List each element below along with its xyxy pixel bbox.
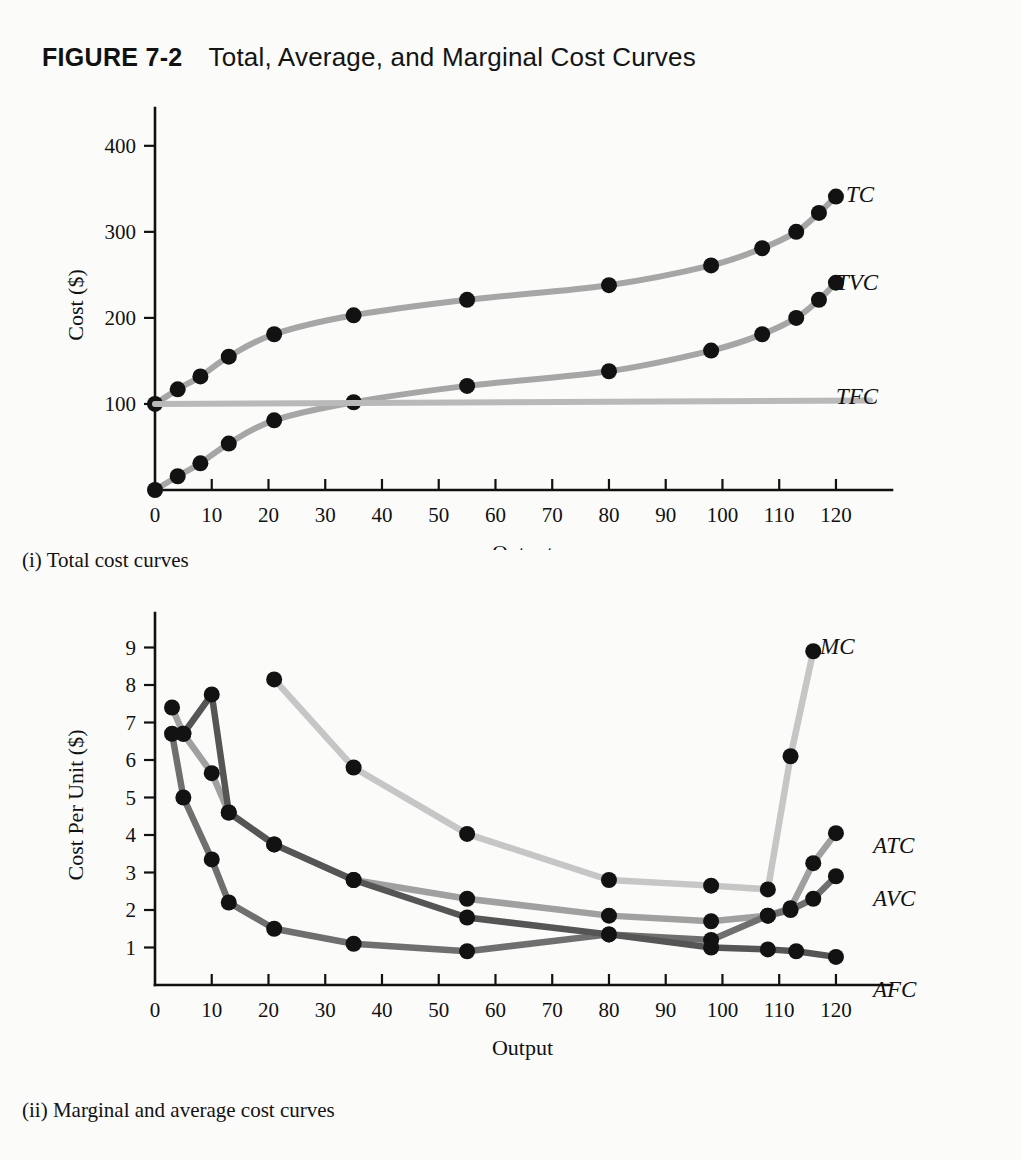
y-tick-label: 100 bbox=[105, 392, 137, 416]
x-tick-label: 40 bbox=[371, 503, 392, 527]
data-point-atc bbox=[805, 855, 821, 871]
x-tick-label: 50 bbox=[428, 998, 449, 1022]
data-point-avc bbox=[459, 943, 475, 959]
y-tick-label: 1 bbox=[126, 936, 137, 960]
data-point-afc bbox=[760, 941, 776, 957]
data-point-afc bbox=[788, 943, 804, 959]
data-point-tc bbox=[754, 240, 770, 256]
y-tick-label: 7 bbox=[126, 711, 137, 735]
data-point-mc bbox=[266, 671, 282, 687]
x-tick-label: 10 bbox=[201, 998, 222, 1022]
x-tick-label: 120 bbox=[820, 503, 852, 527]
data-point-afc bbox=[204, 686, 220, 702]
data-point-mc bbox=[760, 881, 776, 897]
chart-panel-unit-cost: 1234567890102030405060708090100110120Out… bbox=[0, 595, 1000, 1095]
data-point-tc bbox=[459, 292, 475, 308]
y-tick-label: 8 bbox=[126, 673, 137, 697]
y-axis-title: Cost Per Unit ($) bbox=[63, 730, 88, 881]
data-point-tc bbox=[703, 257, 719, 273]
marginal-average-cost-chart: 1234567890102030405060708090100110120Out… bbox=[0, 595, 1000, 1095]
x-tick-label: 20 bbox=[258, 998, 279, 1022]
data-point-avc bbox=[266, 921, 282, 937]
data-point-tvc bbox=[754, 326, 770, 342]
total-cost-chart: 1002003004000102030405060708090100110120… bbox=[0, 100, 1000, 550]
data-point-atc bbox=[828, 825, 844, 841]
data-point-tc bbox=[788, 224, 804, 240]
data-point-avc bbox=[805, 891, 821, 907]
data-point-tvc bbox=[811, 292, 827, 308]
data-point-mc bbox=[703, 878, 719, 894]
data-point-avc bbox=[175, 790, 191, 806]
data-point-tvc bbox=[192, 455, 208, 471]
data-point-tc bbox=[601, 277, 617, 293]
data-point-afc bbox=[703, 940, 719, 956]
data-point-tvc bbox=[266, 412, 282, 428]
data-point-tc bbox=[192, 368, 208, 384]
data-point-tc bbox=[828, 189, 844, 205]
data-point-tvc bbox=[459, 378, 475, 394]
data-point-avc bbox=[221, 895, 237, 911]
y-tick-label: 4 bbox=[126, 823, 137, 847]
unit-cost-label-avc: AVC bbox=[873, 886, 915, 912]
y-axis-title: Cost ($) bbox=[63, 269, 88, 341]
unit-cost-label-mc: MC bbox=[820, 634, 855, 660]
x-tick-label: 90 bbox=[655, 998, 676, 1022]
figure-header: FIGURE 7-2 Total, Average, and Marginal … bbox=[42, 42, 696, 73]
data-point-avc bbox=[204, 851, 220, 867]
x-tick-label: 80 bbox=[598, 998, 619, 1022]
data-point-tvc bbox=[221, 436, 237, 452]
data-point-afc bbox=[175, 726, 191, 742]
x-tick-label: 80 bbox=[598, 503, 619, 527]
y-tick-label: 9 bbox=[126, 636, 137, 660]
data-point-tvc bbox=[788, 310, 804, 326]
x-tick-label: 30 bbox=[315, 503, 336, 527]
x-tick-label: 0 bbox=[150, 503, 161, 527]
total-cost-label-tvc: TVC bbox=[836, 270, 878, 296]
x-tick-label: 110 bbox=[764, 998, 795, 1022]
data-point-tc bbox=[170, 381, 186, 397]
data-point-tvc bbox=[703, 343, 719, 359]
y-tick-label: 200 bbox=[105, 306, 137, 330]
data-point-tc bbox=[811, 205, 827, 221]
data-point-afc bbox=[601, 926, 617, 942]
y-tick-label: 5 bbox=[126, 786, 137, 810]
x-tick-label: 50 bbox=[428, 503, 449, 527]
data-point-mc bbox=[783, 748, 799, 764]
data-point-mc bbox=[346, 760, 362, 776]
data-point-tc bbox=[266, 326, 282, 342]
data-point-avc bbox=[346, 936, 362, 952]
unit-cost-label-afc: AFC bbox=[873, 977, 916, 1003]
data-point-afc bbox=[221, 805, 237, 821]
data-point-tc bbox=[221, 349, 237, 365]
figure-number: FIGURE 7-2 bbox=[42, 43, 183, 72]
x-tick-label: 120 bbox=[820, 998, 852, 1022]
data-point-atc bbox=[204, 765, 220, 781]
data-point-atc bbox=[703, 913, 719, 929]
data-point-avc bbox=[760, 908, 776, 924]
x-tick-label: 40 bbox=[371, 998, 392, 1022]
x-tick-label: 90 bbox=[655, 503, 676, 527]
total-cost-label-tc: TC bbox=[846, 182, 874, 208]
caption-panel-i: (i) Total cost curves bbox=[22, 548, 189, 573]
x-tick-label: 100 bbox=[707, 998, 739, 1022]
x-tick-label: 10 bbox=[201, 503, 222, 527]
total-cost-label-tfc: TFC bbox=[836, 384, 878, 410]
x-tick-label: 100 bbox=[707, 503, 739, 527]
data-point-mc bbox=[601, 872, 617, 888]
curve-tvc bbox=[155, 283, 836, 490]
data-point-avc bbox=[828, 868, 844, 884]
data-point-tc bbox=[346, 307, 362, 323]
figure-page: FIGURE 7-2 Total, Average, and Marginal … bbox=[0, 0, 1021, 1160]
x-tick-label: 70 bbox=[542, 998, 563, 1022]
data-point-tvc bbox=[601, 363, 617, 379]
figure-title: Total, Average, and Marginal Cost Curves bbox=[209, 42, 696, 73]
y-tick-label: 3 bbox=[126, 861, 137, 885]
x-tick-label: 60 bbox=[485, 503, 506, 527]
data-point-mc bbox=[459, 826, 475, 842]
y-tick-label: 300 bbox=[105, 220, 137, 244]
curve-tfc bbox=[155, 401, 870, 404]
y-tick-label: 400 bbox=[105, 134, 137, 158]
x-tick-label: 60 bbox=[485, 998, 506, 1022]
x-tick-label: 20 bbox=[258, 503, 279, 527]
x-axis-title: Output bbox=[492, 540, 553, 550]
